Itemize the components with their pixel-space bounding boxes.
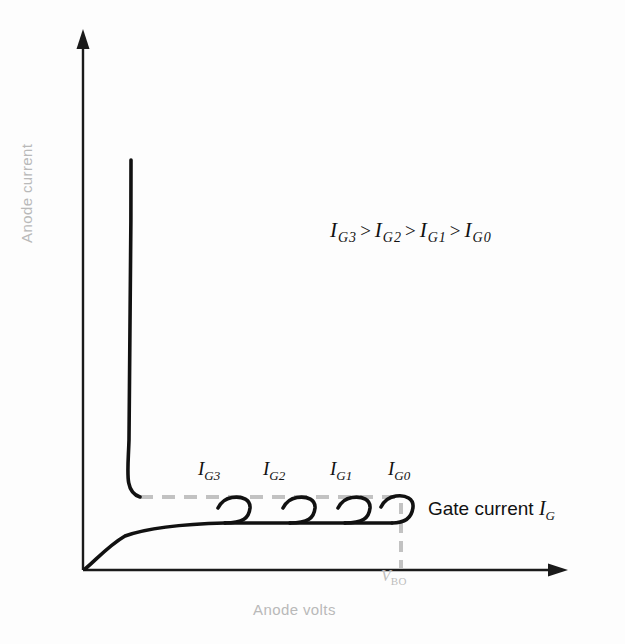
off-state-leakage-curve [85, 523, 225, 569]
inequality-sub-3: G1 [428, 230, 447, 245]
y-axis-arrowhead [77, 29, 90, 49]
curve-label-ig2-subscript: G2 [269, 468, 285, 483]
inequality-sub-4: G0 [473, 230, 492, 245]
curve-label-ig3: IG3 [198, 458, 220, 484]
gate-current-subscript: G [546, 508, 555, 523]
breakover-voltage-label: VBO [381, 567, 407, 587]
inequality-term-4: I [465, 218, 473, 242]
axes-group [77, 29, 569, 577]
breakover-knee-ig1 [338, 497, 370, 523]
curve-label-ig1: IG1 [330, 458, 352, 484]
curve-label-ig1-subscript: G1 [336, 468, 352, 483]
curve-label-ig0: IG0 [388, 458, 410, 484]
gate-current-text: Gate current [428, 498, 534, 519]
on-state-branch-curve [128, 160, 140, 497]
inequality-sub-2: G2 [383, 230, 402, 245]
inequality-term-3: I [420, 218, 428, 242]
dashed-guides-group [140, 497, 404, 568]
curve-label-ig2: IG2 [263, 458, 285, 484]
inequality-sub-1: G3 [338, 230, 357, 245]
x-axis-arrowhead [548, 564, 568, 577]
inequality-operator-2: > [402, 220, 420, 241]
inequality-term-1: I [330, 218, 338, 242]
breakover-knee-ig2 [283, 497, 315, 523]
y-axis-label: Anode current [18, 83, 35, 243]
thyristor-characteristic-chart [0, 0, 625, 644]
breakover-knee-ig3 [218, 497, 250, 523]
gate-current-symbol: I [539, 497, 546, 519]
gate-current-inequality: IG3>IG2>IG1>IG0 [330, 218, 492, 246]
inequality-term-2: I [375, 218, 383, 242]
inequality-operator-3: > [447, 220, 465, 241]
breakover-voltage-subscript: BO [391, 575, 407, 587]
x-axis-label: Anode volts [253, 601, 336, 618]
gate-current-annotation: Gate current IG [428, 497, 555, 524]
breakover-knee-ig0 [381, 496, 413, 523]
curve-label-ig0-subscript: G0 [394, 468, 410, 483]
breakover-voltage-symbol: V [381, 567, 391, 584]
inequality-operator-1: > [357, 220, 375, 241]
curve-label-ig3-subscript: G3 [204, 468, 220, 483]
